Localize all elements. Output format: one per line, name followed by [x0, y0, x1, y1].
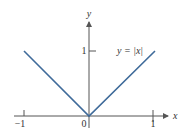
y-tick-label-1: 1: [82, 45, 87, 56]
x-tick-label-neg1: −1: [15, 118, 26, 129]
x-tick-label-0: 0: [82, 118, 87, 129]
x-tick-label-pos1: 1: [151, 118, 156, 129]
curve-label: y = |x|: [116, 45, 143, 56]
x-axis-label: x: [172, 110, 178, 121]
plot-canvas: y x 1 −1 0 1 y = |x|: [0, 0, 186, 139]
y-axis-label: y: [86, 8, 92, 19]
